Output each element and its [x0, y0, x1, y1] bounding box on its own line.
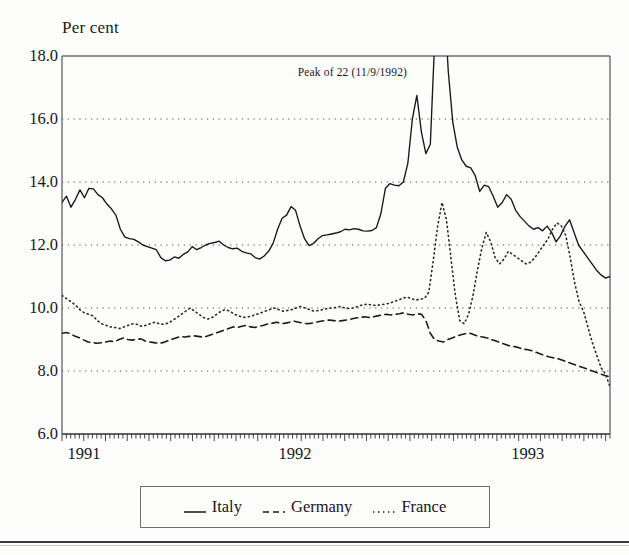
- legend-item-italy[interactable]: Italy: [184, 497, 242, 517]
- x-axis-tick-label: 1992: [278, 444, 311, 464]
- series-line-germany: [62, 313, 610, 377]
- series-line-france: [62, 202, 610, 386]
- legend-label: France: [401, 497, 446, 517]
- legend-label: Germany: [291, 497, 352, 517]
- chart-figure: Per cent 18.016.014.012.010.08.06.0 1991…: [0, 0, 629, 555]
- peak-annotation: Peak of 22 (11/9/1992): [298, 66, 407, 78]
- legend-swatch-solid-icon: [184, 502, 206, 512]
- x-axis-tick-label: 1991: [68, 444, 101, 464]
- x-axis-tick-label: 1993: [511, 444, 544, 464]
- footer-divider-secondary: [0, 545, 629, 546]
- chart-legend: ItalyGermanyFrance: [140, 486, 490, 528]
- legend-item-germany[interactable]: Germany: [263, 497, 352, 517]
- legend-label: Italy: [212, 497, 242, 517]
- series-line-italy: [62, 0, 610, 278]
- legend-swatch-dotted-icon: [373, 502, 395, 512]
- series-group: [62, 0, 610, 387]
- legend-swatch-dashed-icon: [263, 502, 285, 512]
- footer-divider: [0, 541, 629, 543]
- legend-item-france[interactable]: France: [373, 497, 446, 517]
